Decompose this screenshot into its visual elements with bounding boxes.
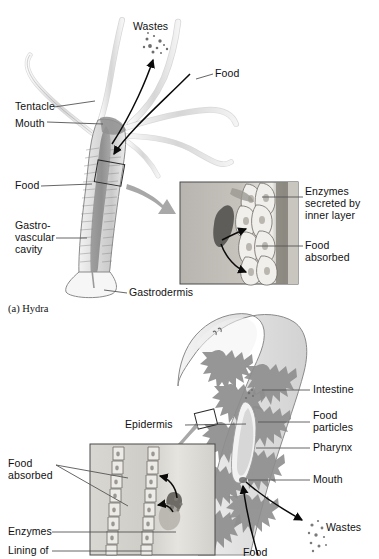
label-food-particles-line2: particles <box>313 422 353 434</box>
label-gastrovascular-line3: cavity <box>15 244 42 256</box>
label-enzymes-line2: secreted by <box>305 198 360 210</box>
label-intestine: Intestine <box>313 384 354 396</box>
waste-particles-hydra <box>143 32 168 54</box>
label-pharynx: Pharynx <box>313 442 352 454</box>
waste-particles-planarian <box>308 520 327 552</box>
mouth-opening-planarian <box>239 477 247 483</box>
label-food-hydra-left: Food <box>15 180 39 192</box>
label-enzymes-line3: inner layer <box>305 210 355 222</box>
label-food-absorbed-a-line1: Food <box>305 240 329 252</box>
label-tentacle: Tentacle <box>15 101 55 113</box>
label-food-absorbed-a-line2: absorbed <box>305 252 350 264</box>
label-food-planarian: Food <box>243 547 267 559</box>
label-mouth-hydra: Mouth <box>15 118 45 130</box>
label-enzymes-line1: Enzymes <box>305 186 349 198</box>
label-enzymes-planarian: Enzymes <box>8 526 52 538</box>
label-food-absorbed-b-line1: Food <box>8 458 32 470</box>
caption-panel-a: (a) Hydra <box>8 303 49 314</box>
hydra-inset-panel <box>180 182 298 285</box>
label-gastrovascular-line2: vascular <box>15 232 55 244</box>
planarian-inset-panel <box>90 444 215 555</box>
label-gastrodermis: Gastrodermis <box>129 287 193 299</box>
label-wastes-planarian: Wastes <box>326 522 361 534</box>
label-food-hydra-top: Food <box>215 68 239 80</box>
label-mouth-planarian: Mouth <box>313 474 343 486</box>
label-food-particles-line1: Food <box>313 410 337 422</box>
label-food-absorbed-b-line2: absorbed <box>8 470 53 482</box>
label-lining-of: Lining of <box>8 545 49 557</box>
label-wastes-hydra: Wastes <box>133 21 168 33</box>
hydra-zoom-arrow <box>126 184 176 214</box>
label-gastrovascular-line1: Gastro- <box>15 220 51 232</box>
label-epidermis: Epidermis <box>125 419 173 431</box>
